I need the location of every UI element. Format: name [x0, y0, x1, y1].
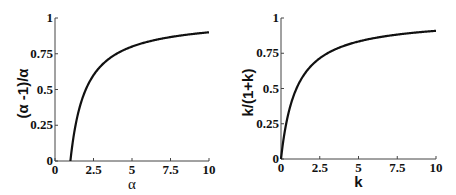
x-axis-label: k	[354, 173, 363, 190]
y-tick-label: 0	[273, 151, 280, 166]
x-tick-label: 10	[203, 162, 216, 177]
x-axis-label: α	[128, 176, 136, 192]
y-tick-label: 0	[47, 153, 54, 168]
y-tick-label: 1	[273, 10, 280, 25]
x-tick-label: 5	[129, 162, 136, 177]
chart-k: 02.557.51000.250.50.751kk/(1+k)	[239, 10, 443, 190]
y-tick-label: 0.25	[30, 117, 53, 132]
y-tick-label: 1	[47, 10, 54, 25]
y-axis-label: (α -1)/α	[14, 68, 31, 119]
x-tick-label: 10	[430, 160, 443, 175]
figure: 02.557.51000.250.50.751α(α -1)/α 02.557.…	[0, 0, 456, 195]
y-tick-label: 0.25	[256, 116, 279, 131]
x-tick-label: 2.5	[312, 160, 329, 175]
y-tick-label: 0.5	[263, 81, 280, 96]
x-tick-label: 7.5	[389, 160, 406, 175]
y-tick-label: 0.75	[30, 46, 53, 61]
chart-alpha: 02.557.51000.250.50.751α(α -1)/α	[14, 10, 216, 192]
y-tick-label: 0.75	[256, 45, 279, 60]
x-tick-label: 2.5	[85, 162, 102, 177]
y-tick-label: 0.5	[37, 82, 54, 97]
data-curve	[70, 32, 209, 161]
data-curve	[281, 31, 436, 159]
x-tick-label: 7.5	[162, 162, 179, 177]
y-axis-label: k/(1+k)	[239, 69, 256, 117]
